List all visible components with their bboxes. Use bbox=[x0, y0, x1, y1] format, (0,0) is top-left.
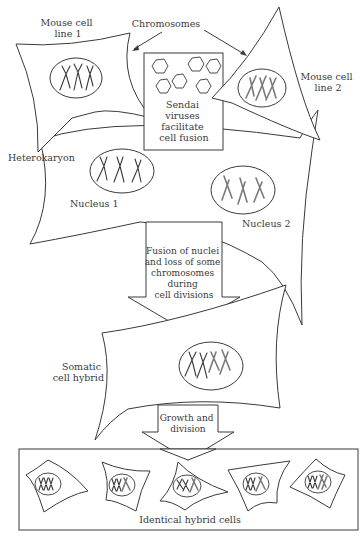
nucleus-cell-2 bbox=[238, 69, 286, 107]
nucleus-1-label: Nucleus 1 bbox=[70, 198, 118, 209]
cell-fusion-diagram: Sendai viruses facilitate cell fusion Ch… bbox=[0, 0, 363, 541]
hybrid-clone-2 bbox=[102, 462, 150, 511]
arrowhead-2 bbox=[240, 50, 247, 56]
arrow-to-chromosome-2 bbox=[204, 30, 244, 54]
heterokaryon-nucleus-1 bbox=[90, 149, 154, 193]
growth-arrow-tip bbox=[160, 449, 216, 460]
hybrid-clone-4 bbox=[228, 461, 290, 511]
hybrid-clone-5 bbox=[290, 459, 345, 508]
nucleus-2-label: Nucleus 2 bbox=[242, 218, 290, 229]
hybrid-clone-1 bbox=[26, 460, 88, 512]
nucleus-cell-1 bbox=[50, 58, 102, 98]
mouse-cell-line-2-label: Mouse cell line 2 bbox=[300, 71, 355, 93]
identical-hybrid-cells-label: Identical hybrid cells bbox=[139, 514, 241, 525]
heterokaryon-label: Heterokaryon bbox=[8, 152, 75, 163]
mouse-cell-line-1-label: Mouse cell line 1 bbox=[40, 17, 95, 39]
arrowhead-1 bbox=[132, 45, 139, 51]
fusion-step-label: Fusion of nuclei and loss of some chromo… bbox=[145, 246, 224, 300]
sendai-label: Sendai viruses facilitate cell fusion bbox=[159, 99, 208, 143]
somatic-cell-hybrid-label: Somatic cell hybrid bbox=[53, 361, 104, 383]
chromosomes-label: Chromosomes bbox=[132, 18, 201, 29]
hybrid-clone-3 bbox=[160, 462, 228, 510]
